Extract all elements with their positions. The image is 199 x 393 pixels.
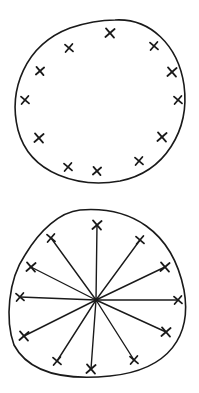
bottom-spokes bbox=[20, 225, 178, 369]
bottom-loop-with-spokes bbox=[9, 210, 186, 378]
x-mark-icon bbox=[130, 356, 138, 364]
spoke-line bbox=[20, 297, 96, 300]
x-mark-icon bbox=[21, 96, 29, 104]
spoke-line bbox=[51, 238, 96, 300]
x-mark-icon bbox=[65, 44, 73, 52]
x-mark-icon bbox=[19, 331, 28, 340]
x-mark-icon bbox=[160, 262, 169, 271]
x-mark-icon bbox=[174, 96, 182, 104]
x-mark-icon bbox=[150, 42, 158, 50]
center-hub-point bbox=[94, 298, 98, 302]
x-mark-icon bbox=[34, 133, 43, 142]
x-mark-icon bbox=[53, 357, 61, 365]
top-loop-outline bbox=[15, 20, 185, 183]
spoke-line bbox=[91, 300, 96, 369]
x-mark-icon bbox=[47, 234, 55, 242]
x-mark-icon bbox=[161, 327, 170, 336]
x-mark-icon bbox=[26, 262, 35, 271]
spoke-line bbox=[96, 267, 165, 300]
spoke-line bbox=[31, 267, 96, 300]
spoke-line bbox=[96, 240, 140, 300]
x-mark-icon bbox=[167, 67, 176, 76]
x-mark-icon bbox=[105, 28, 114, 37]
x-mark-icon bbox=[64, 163, 72, 171]
x-mark-icon bbox=[135, 157, 143, 165]
top-x-marks bbox=[21, 28, 182, 175]
x-mark-icon bbox=[157, 132, 166, 141]
top-loop-with-marks bbox=[15, 20, 185, 183]
x-mark-icon bbox=[136, 236, 144, 244]
x-mark-icon bbox=[36, 67, 44, 75]
x-mark-icon bbox=[93, 167, 101, 175]
sketch-svg bbox=[0, 0, 199, 393]
spoke-line bbox=[96, 225, 97, 300]
sketch-canvas bbox=[0, 0, 199, 393]
